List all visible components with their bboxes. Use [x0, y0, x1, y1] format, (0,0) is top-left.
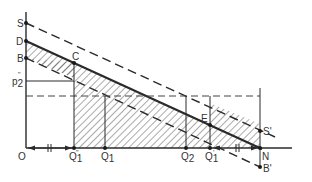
label-n: N	[262, 151, 269, 162]
label-q1-prime: Q1	[205, 151, 219, 164]
label-q1-prime-sup: '	[213, 149, 214, 156]
label-s-prime: S'	[263, 126, 272, 137]
label-origin: O	[18, 151, 26, 162]
label-c: C	[72, 51, 79, 62]
label-p2-sup: "	[18, 71, 21, 78]
label-e: E	[201, 113, 208, 124]
label-q2: Q2	[181, 151, 195, 164]
economics-diagram: S D B p2 " C E S' N B' O Q1 " Q1 Q2 Q1 '	[0, 0, 312, 182]
label-b-prime: B'	[263, 163, 272, 174]
equal-distance-arrow-left	[28, 144, 72, 152]
diagram-canvas: S D B p2 " C E S' N B' O Q1 " Q1 Q2 Q1 '	[0, 0, 312, 182]
label-b: B	[17, 53, 24, 64]
label-s: S	[17, 18, 24, 29]
label-q1: Q1	[101, 151, 115, 164]
label-d: D	[16, 36, 23, 47]
